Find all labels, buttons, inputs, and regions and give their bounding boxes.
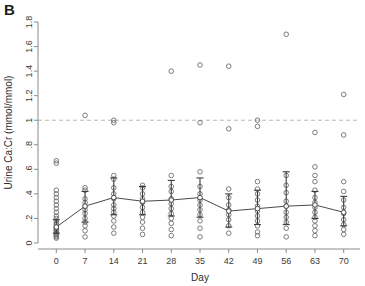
data-point <box>169 69 174 74</box>
mean-marker <box>284 204 289 209</box>
y-tick-label-6: 1.2 <box>24 89 34 102</box>
x-tick-label-9: 63 <box>310 256 320 266</box>
axis-ticks-group: 0.2.4.6.811.21.41.61.8071421283542495663… <box>24 16 348 266</box>
x-tick-label-10: 70 <box>339 256 349 266</box>
axis-labels-group: Urine Ca:Cr (mmol/mmol)Day <box>3 76 209 283</box>
x-tick-label-2: 14 <box>109 256 119 266</box>
y-tick-label-1: .2 <box>24 215 34 223</box>
data-point <box>284 32 289 37</box>
data-point <box>313 233 318 238</box>
data-point <box>140 220 145 225</box>
data-point <box>169 221 174 226</box>
mean-marker <box>313 203 318 208</box>
data-point <box>255 124 260 129</box>
y-tick-label-9: 1.8 <box>24 16 34 29</box>
panel-label: B <box>4 2 15 17</box>
y-tick-label-8: 1.6 <box>24 40 34 53</box>
data-point <box>140 226 145 231</box>
data-point <box>255 179 260 184</box>
data-point <box>226 231 231 236</box>
mean-marker <box>255 206 260 211</box>
data-point <box>313 130 318 135</box>
x-tick-label-1: 7 <box>83 256 88 266</box>
x-tick-label-8: 56 <box>281 256 291 266</box>
data-point <box>198 169 203 174</box>
data-point <box>169 216 174 221</box>
y-tick-label-5: 1 <box>24 118 34 123</box>
x-tick-label-6: 42 <box>224 256 234 266</box>
data-point <box>226 127 231 132</box>
data-point <box>313 228 318 233</box>
x-axis-title: Day <box>191 272 209 283</box>
data-point <box>284 235 289 240</box>
x-tick-label-0: 0 <box>54 256 59 266</box>
data-point <box>169 173 174 178</box>
data-point <box>83 235 88 240</box>
mean-marker <box>83 204 88 209</box>
data-point <box>341 189 346 194</box>
data-point <box>140 215 145 220</box>
y-tick-label-3: .6 <box>24 166 34 174</box>
data-point <box>198 226 203 231</box>
data-point <box>111 231 116 236</box>
mean-marker <box>198 195 203 200</box>
y-tick-label-4: .8 <box>24 141 34 149</box>
data-point <box>341 133 346 138</box>
data-point <box>169 227 174 232</box>
data-point <box>169 233 174 238</box>
data-point <box>111 225 116 230</box>
data-point <box>226 187 231 192</box>
x-tick-label-4: 28 <box>166 256 176 266</box>
y-tick-label-2: .4 <box>24 190 34 198</box>
y-tick-label-0: 0 <box>24 240 34 245</box>
data-point <box>198 63 203 68</box>
figure-panel-b: B 0.2.4.6.811.21.41.61.80714212835424956… <box>0 0 365 286</box>
mean-marker <box>169 198 174 203</box>
scatter-plot-urine-ca-cr: 0.2.4.6.811.21.41.61.8071421283542495663… <box>0 0 365 286</box>
y-axis-title: Urine Ca:Cr (mmol/mmol) <box>3 76 14 190</box>
y-tick-label-7: 1.4 <box>24 65 34 78</box>
data-point <box>111 219 116 224</box>
data-point <box>198 120 203 125</box>
x-tick-label-5: 35 <box>195 256 205 266</box>
data-point <box>313 165 318 170</box>
data-point <box>198 219 203 224</box>
mean-marker <box>54 225 59 230</box>
data-point <box>83 113 88 118</box>
mean-marker <box>140 199 145 204</box>
mean-marker <box>341 210 346 215</box>
data-point <box>313 179 318 184</box>
data-point <box>313 173 318 178</box>
data-point <box>226 64 231 69</box>
data-point <box>198 235 203 240</box>
data-point <box>341 232 346 237</box>
data-point <box>341 92 346 97</box>
data-point <box>341 179 346 184</box>
mean-marker <box>226 209 231 214</box>
mean-marker <box>111 195 116 200</box>
data-point <box>313 224 318 229</box>
data-point <box>284 226 289 231</box>
data-point <box>140 232 145 237</box>
x-tick-label-7: 49 <box>252 256 262 266</box>
x-tick-label-3: 21 <box>138 256 148 266</box>
data-point <box>341 227 346 232</box>
data-point <box>83 228 88 233</box>
